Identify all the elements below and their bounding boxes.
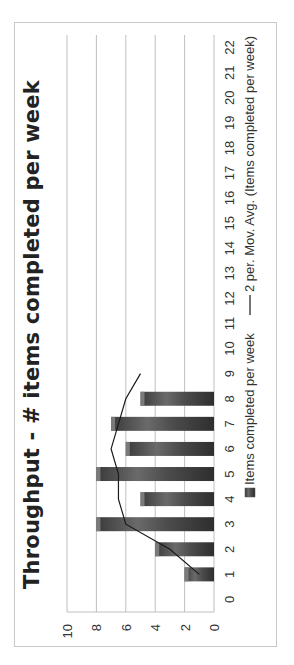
bar <box>126 442 214 456</box>
x-tick-label: 3 <box>222 521 237 528</box>
x-tick-label: 15 <box>222 216 237 230</box>
x-tick-label: 22 <box>222 40 237 54</box>
x-tick-label: 10 <box>222 341 237 355</box>
bar-cap <box>155 542 159 556</box>
y-tick-label: 8 <box>89 624 104 631</box>
bar-cap <box>141 392 145 406</box>
x-tick-label: 14 <box>222 241 237 255</box>
rotated-chart-container: Throughput - # items completed per week … <box>14 22 277 647</box>
bar-cap <box>96 467 100 481</box>
y-tick-label: 0 <box>207 624 222 631</box>
legend: Items completed per week2 per. Mov. Avg.… <box>242 36 257 497</box>
x-tick-label: 20 <box>222 90 237 104</box>
legend-bar-label: Items completed per week <box>242 333 257 485</box>
y-axis-ticks: 0246810 <box>60 624 222 638</box>
bar-cap <box>141 492 145 506</box>
y-tick-label: 6 <box>119 624 134 631</box>
legend-line-label: 2 per. Mov. Avg. (Items completed per we… <box>242 36 257 292</box>
y-tick-label: 2 <box>178 624 193 631</box>
x-tick-label: 21 <box>222 65 237 79</box>
x-tick-label: 9 <box>222 370 237 377</box>
x-tick-label: 1 <box>222 571 237 578</box>
y-tick-label: 4 <box>148 624 163 631</box>
bar <box>96 517 214 531</box>
chart-plot: 0246810 01234567891011121314151617181920… <box>14 22 277 647</box>
x-tick-label: 4 <box>222 495 237 502</box>
x-tick-label: 18 <box>222 141 237 155</box>
bar <box>111 417 214 431</box>
bar-cap <box>96 517 100 531</box>
x-tick-label: 11 <box>222 317 237 331</box>
x-tick-label: 0 <box>222 596 237 603</box>
y-tick-label: 10 <box>60 624 75 638</box>
x-tick-label: 6 <box>222 445 237 452</box>
bar <box>141 392 215 406</box>
bar-cap <box>126 442 130 456</box>
bar <box>141 492 215 506</box>
x-tick-label: 13 <box>222 266 237 280</box>
bar-cap <box>185 567 189 581</box>
x-tick-label: 5 <box>222 470 237 477</box>
x-tick-label: 2 <box>222 546 237 553</box>
bar-cap <box>111 417 115 431</box>
x-tick-label: 19 <box>222 116 237 130</box>
bar <box>155 542 214 556</box>
legend-bar-swatch <box>245 488 255 497</box>
x-tick-label: 17 <box>222 166 237 180</box>
x-tick-label: 16 <box>222 191 237 205</box>
x-tick-label: 7 <box>222 420 237 427</box>
x-tick-label: 12 <box>222 291 237 305</box>
x-axis-ticks: 012345678910111213141516171819202122 <box>222 40 237 603</box>
bar <box>96 467 214 481</box>
x-tick-label: 8 <box>222 395 237 402</box>
